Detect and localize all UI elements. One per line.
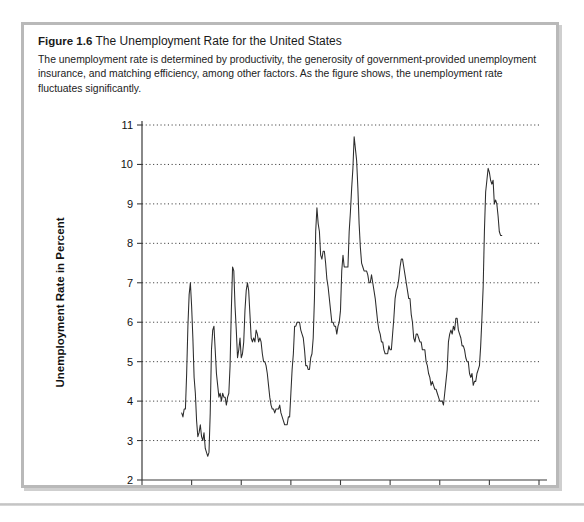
- figure-title-text: The Unemployment Rate for the United Sta…: [96, 34, 342, 48]
- y-tick-label-9: 9: [127, 198, 133, 210]
- y-tick-label-8: 8: [127, 237, 133, 249]
- figure-description: The unemployment rate is determined by p…: [38, 53, 546, 96]
- figure-title: Figure 1.6 The Unemployment Rate for the…: [38, 34, 546, 49]
- y-tick-label-11: 11: [122, 119, 133, 131]
- y-tick-label-10: 10: [121, 158, 133, 170]
- gridlines-group: [142, 125, 539, 441]
- figure-caption-block: Figure 1.6 The Unemployment Rate for the…: [38, 34, 546, 96]
- y-tick-label-3: 3: [127, 435, 133, 447]
- page-bottom-divider: [0, 503, 584, 506]
- y-tick-label-4: 4: [127, 395, 133, 407]
- y-axis-ticks-group: 234567891011: [121, 119, 142, 486]
- y-tick-label-6: 6: [127, 316, 133, 328]
- chart-plot-area: 234567891011 194019501960197019801990200…: [24, 103, 562, 488]
- x-axis-ticks-group: 194019501960197019801990200020102020: [130, 480, 551, 488]
- y-tick-label-2: 2: [127, 474, 133, 486]
- figure-page: Figure 1.6 The Unemployment Rate for the…: [0, 0, 584, 522]
- figure-number: Figure 1.6: [38, 35, 92, 47]
- y-tick-label-5: 5: [127, 356, 133, 368]
- unemployment-rate-line-chart: 234567891011 194019501960197019801990200…: [24, 103, 562, 488]
- y-tick-label-7: 7: [127, 277, 133, 289]
- y-axis-title: Unemployment Rate in Percent: [54, 217, 66, 387]
- figure-card: Figure 1.6 The Unemployment Rate for the…: [21, 22, 559, 488]
- unemployment-rate-series-line: [182, 137, 502, 457]
